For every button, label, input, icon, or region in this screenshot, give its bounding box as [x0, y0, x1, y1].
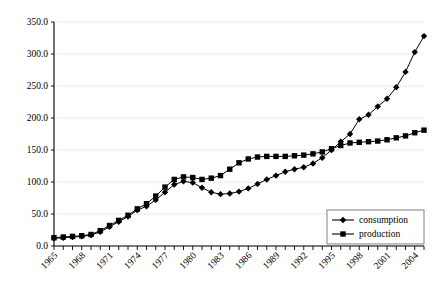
data-point-production — [153, 193, 158, 198]
data-point-production — [98, 228, 103, 233]
y-axis-tick-label: 150.0 — [27, 145, 49, 155]
data-point-production — [301, 152, 306, 157]
data-point-production — [255, 154, 260, 159]
data-point-production — [310, 151, 315, 156]
data-point-production — [292, 153, 297, 158]
data-point-production — [116, 218, 121, 223]
data-point-production — [366, 139, 371, 144]
data-point-production — [412, 130, 417, 135]
data-point-production — [218, 173, 223, 178]
y-axis-tick-label: 250.0 — [27, 81, 49, 91]
data-point-production — [107, 223, 112, 228]
y-axis-tick-label: 350.0 — [27, 17, 49, 27]
chart-legend[interactable]: consumptionproduction — [327, 210, 424, 244]
data-point-production — [264, 154, 269, 159]
legend-marker-production — [340, 231, 345, 236]
data-point-production — [190, 175, 195, 180]
chart-canvas: 0.050.0100.0150.0200.0250.0300.0350.0 19… — [0, 0, 436, 291]
line-chart: 0.050.0100.0150.0200.0250.0300.0350.0 19… — [0, 0, 436, 291]
data-point-production — [236, 160, 241, 165]
data-point-production — [227, 167, 232, 172]
legend-label-production[interactable]: production — [359, 229, 400, 239]
data-point-production — [375, 138, 380, 143]
y-axis-tick-label: 100.0 — [27, 177, 49, 187]
data-point-production — [51, 235, 56, 240]
data-point-production — [209, 175, 214, 180]
data-point-production — [61, 234, 66, 239]
data-point-production — [357, 140, 362, 145]
chart-background — [0, 0, 436, 291]
data-point-production — [283, 154, 288, 159]
data-point-production — [421, 127, 426, 132]
data-point-production — [135, 206, 140, 211]
data-point-production — [88, 232, 93, 237]
data-point-production — [181, 174, 186, 179]
data-point-production — [144, 201, 149, 206]
y-axis-tick-label: 50.0 — [31, 209, 48, 219]
data-point-production — [384, 137, 389, 142]
y-axis-tick-label: 200.0 — [27, 113, 49, 123]
data-point-production — [172, 177, 177, 182]
y-axis-tick-label: 0.0 — [36, 241, 48, 251]
data-point-production — [320, 149, 325, 154]
data-point-production — [246, 156, 251, 161]
y-axis-tick-label: 300.0 — [27, 49, 49, 59]
data-point-production — [329, 146, 334, 151]
data-point-production — [199, 177, 204, 182]
data-point-production — [338, 143, 343, 148]
data-point-production — [162, 184, 167, 189]
data-point-production — [79, 233, 84, 238]
data-point-production — [394, 135, 399, 140]
data-point-production — [125, 213, 130, 218]
data-point-production — [70, 234, 75, 239]
x-axis-ticks-group — [54, 246, 424, 250]
data-point-production — [347, 140, 352, 145]
data-point-production — [273, 154, 278, 159]
data-point-production — [403, 133, 408, 138]
legend-label-consumption[interactable]: consumption — [359, 215, 408, 225]
